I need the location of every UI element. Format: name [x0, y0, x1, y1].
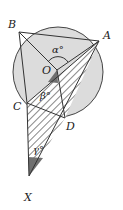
angle-beta: β° — [39, 90, 51, 101]
label-c: C — [13, 100, 22, 113]
label-a: A — [102, 29, 111, 42]
label-o: O — [42, 64, 51, 77]
angle-alpha: α° — [52, 44, 64, 55]
label-b: B — [7, 18, 16, 31]
geometry-diagram: B A O C D X α° β° γ° — [0, 0, 123, 210]
label-x: X — [23, 191, 33, 204]
angle-gamma: γ° — [33, 144, 44, 155]
label-d: D — [65, 120, 75, 133]
